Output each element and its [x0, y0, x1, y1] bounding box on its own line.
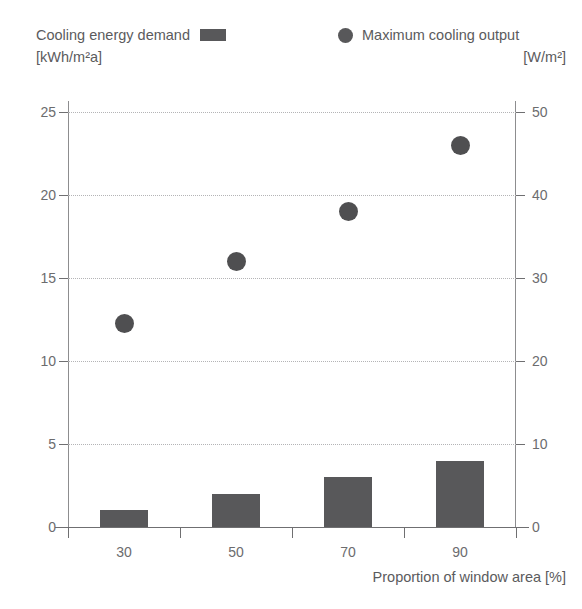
- bar: [324, 477, 372, 527]
- left-axis-tick-label: 10: [16, 354, 56, 368]
- x-axis-tick: [516, 527, 517, 538]
- bar-swatch-icon: [200, 29, 226, 41]
- right-axis-tick-label: 30: [532, 271, 572, 285]
- gridline: [68, 112, 516, 113]
- left-axis-tick-label: 20: [16, 188, 56, 202]
- right-axis-tick-label: 40: [532, 188, 572, 202]
- chart-figure: Cooling energy demand [kWh/m²a] Maximum …: [0, 0, 582, 609]
- legend-entry-maximum-cooling-output: Maximum cooling output [W/m²]: [338, 24, 568, 68]
- plot-area: 051015202501020304050 30507090: [68, 112, 516, 527]
- x-axis-tick: [180, 527, 181, 538]
- left-axis-tick: [59, 112, 68, 113]
- bar: [436, 461, 484, 527]
- left-axis-tick-label: 5: [16, 437, 56, 451]
- right-axis-tick-label: 10: [532, 437, 572, 451]
- right-axis-tick: [516, 444, 525, 445]
- left-axis-tick: [59, 195, 68, 196]
- gridline: [68, 444, 516, 445]
- legend-label-cooling-energy-demand: Cooling energy demand: [36, 24, 190, 46]
- left-axis-tick: [59, 361, 68, 362]
- right-axis-tick: [516, 195, 525, 196]
- data-point: [227, 252, 246, 271]
- gridline: [68, 278, 516, 279]
- left-axis-tick-label: 0: [16, 520, 56, 534]
- right-axis-tick-label: 50: [532, 105, 572, 119]
- data-point: [451, 136, 470, 155]
- circle-swatch-icon: [338, 28, 353, 43]
- left-axis-tick-label: 15: [16, 271, 56, 285]
- left-axis-tick-label: 25: [16, 105, 56, 119]
- x-axis-tick-label: 70: [318, 544, 378, 560]
- x-axis-tick-label: 50: [206, 544, 266, 560]
- bar: [212, 494, 260, 527]
- data-point: [115, 314, 134, 333]
- left-axis-tick: [59, 444, 68, 445]
- right-axis-tick: [516, 112, 525, 113]
- left-axis-tick: [59, 527, 68, 528]
- right-axis-tick: [516, 361, 525, 362]
- x-axis-tick-label: 90: [430, 544, 490, 560]
- x-axis-tick: [404, 527, 405, 538]
- legend-entry-cooling-energy-demand: Cooling energy demand [kWh/m²a]: [36, 24, 266, 68]
- right-axis-tick-label: 20: [532, 354, 572, 368]
- legend-units-maximum-cooling-output: [W/m²]: [338, 46, 568, 68]
- data-point: [339, 202, 358, 221]
- legend-label-maximum-cooling-output: Maximum cooling output: [362, 24, 519, 46]
- right-axis-line: [515, 101, 516, 528]
- right-axis-tick: [516, 527, 525, 528]
- right-axis-tick-label: 0: [532, 520, 572, 534]
- x-axis-tick-label: 30: [94, 544, 154, 560]
- right-axis-tick: [516, 278, 525, 279]
- x-axis-tick: [68, 527, 69, 538]
- gridline: [68, 361, 516, 362]
- bar: [100, 510, 148, 527]
- gridline: [68, 195, 516, 196]
- legend-units-cooling-energy-demand: [kWh/m²a]: [36, 46, 266, 68]
- x-axis-tick: [292, 527, 293, 538]
- chart-legend: Cooling energy demand [kWh/m²a] Maximum …: [0, 0, 582, 100]
- left-axis-tick: [59, 278, 68, 279]
- x-axis-title: Proportion of window area [%]: [373, 568, 566, 586]
- left-axis-line: [68, 101, 69, 528]
